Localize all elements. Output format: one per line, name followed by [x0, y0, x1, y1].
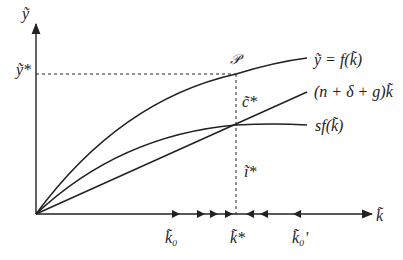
k-star-label: k̃* — [230, 230, 245, 246]
break-even-line — [36, 92, 307, 214]
x-axis-label: k̃ — [376, 208, 383, 224]
k0-label: k̃₀ — [165, 230, 178, 246]
i-star-label: ĩ* — [244, 164, 256, 180]
c-star-label: c̃* — [242, 94, 257, 110]
investment-curve-label: sf(k̃) — [315, 118, 343, 134]
y-star-label: ỹ* — [16, 62, 31, 78]
point-p-label: 𝒫 — [230, 53, 240, 67]
k0-prime-label: k̃₀' — [292, 230, 308, 246]
investment-curve — [36, 124, 307, 214]
y-axis-label: ỹ — [22, 6, 29, 22]
break-even-label: (n + δ + g)k̃ — [314, 84, 393, 100]
output-curve-label: ỹ = f(k̃) — [314, 52, 362, 68]
